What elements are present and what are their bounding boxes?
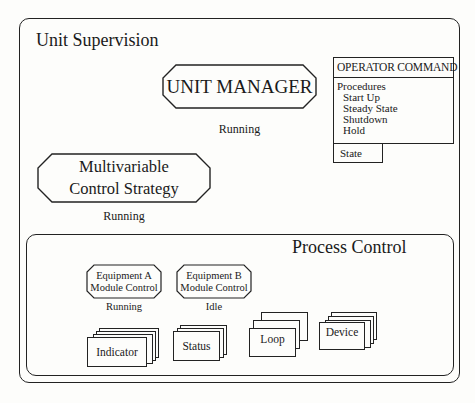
device-label: Device [319,318,365,346]
status-label: Status [173,331,220,361]
multivariable-control-label: Multivariable Control Strategy [37,153,211,203]
equipment-b-label-line1: Equipment B [186,270,242,282]
equipment-a-label-line1: Equipment A [96,270,152,282]
operator-command-title: OPERATOR COMMAND [334,58,453,78]
unit-supervision-title: Unit Supervision [36,30,159,51]
multivariable-control-status: Running [37,209,211,224]
indicator-label: Indicator [87,337,147,367]
equipment-b-label: Equipment B Module Control [176,264,252,299]
loop-label: Loop [249,324,296,353]
multivariable-control-label-line1: Multivariable [79,156,169,178]
operator-command-panel: OPERATOR COMMAND Procedures Start Up Ste… [333,57,454,144]
equipment-a-label-line2: Module Control [90,282,157,294]
equipment-a-status: Running [86,301,162,312]
multivariable-control-label-line2: Control Strategy [69,178,179,200]
equipment-b-status: Idle [176,301,252,312]
unit-manager-status: Running [162,122,317,137]
equipment-b-label-line2: Module Control [180,282,247,294]
state-field[interactable]: State [333,143,383,163]
equipment-a-label: Equipment A Module Control [86,264,162,299]
process-control-title: Process Control [292,237,407,258]
unit-manager-label: UNIT MANAGER [162,64,317,109]
procedure-hold[interactable]: Hold [334,125,453,136]
